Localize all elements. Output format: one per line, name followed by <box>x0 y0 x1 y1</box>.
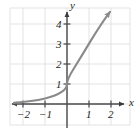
x-axis-label: x <box>129 97 134 108</box>
x-tick-label-neg2: −2 <box>17 109 30 120</box>
x-tick-label-2: 2 <box>108 109 114 120</box>
y-axis-label: y <box>70 0 75 11</box>
x-tick-label-1: 1 <box>86 109 92 120</box>
exponential-curve <box>14 12 110 103</box>
y-tick-label-1: 1 <box>56 79 62 90</box>
graph-figure: −2 −1 1 2 1 2 3 4 y x <box>0 0 140 133</box>
x-tick-label-neg1: −1 <box>39 109 52 120</box>
y-tick-label-2: 2 <box>56 59 62 70</box>
y-tick-label-4: 4 <box>56 19 62 30</box>
y-tick-label-3: 3 <box>56 39 62 50</box>
